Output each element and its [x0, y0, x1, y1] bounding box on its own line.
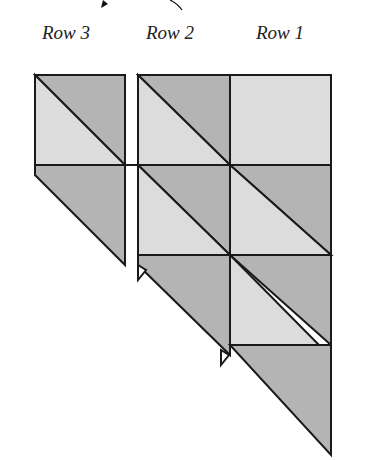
- quilt-diagram: [0, 0, 365, 460]
- arrow-curve-icon: [170, 0, 182, 10]
- column-row-1: [221, 75, 331, 455]
- column-row-3: [35, 75, 125, 265]
- column-row-2: [138, 75, 230, 355]
- arrow-left-icon: [101, 0, 108, 8]
